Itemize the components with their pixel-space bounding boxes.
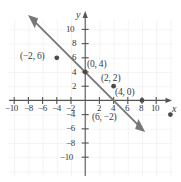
graph-canvas	[0, 0, 181, 182]
x-tick-label-neg6: −6	[38, 104, 47, 113]
y-tick-label-neg4: −4	[66, 110, 75, 119]
y-tick-label-pos10: 10	[66, 25, 74, 34]
y-tick-label-neg6: −6	[66, 124, 75, 133]
x-tick-label-pos10: 10	[151, 104, 159, 113]
y-axis-label: y	[76, 10, 80, 20]
x-tick-label-pos8: 8	[139, 104, 143, 113]
data-point-marker	[54, 55, 59, 60]
point-label-2-2: (2, 2)	[101, 74, 120, 84]
x-tick-label-neg8: −8	[24, 104, 33, 113]
y-tick-label-pos8: 8	[72, 39, 76, 48]
x-tick-label-neg4: −4	[52, 104, 61, 113]
y-tick-label-neg10: −10	[60, 153, 73, 162]
point-label-6-neg2: (6, −2)	[92, 113, 117, 123]
grid-lines	[9, 20, 172, 176]
point-label-neg2-6: (−2, 6)	[20, 52, 45, 62]
point-label-4-0: (4, 0)	[115, 88, 134, 98]
x-axis-label: x	[172, 104, 176, 114]
coordinate-plane-figure: −10 −8 −6 −4 −2 2 4 6 8 10 10 8 6 4 2 −4…	[0, 0, 181, 182]
y-tick-label-neg8: −8	[66, 139, 75, 148]
data-point-marker	[83, 70, 88, 75]
x-tick-label-neg10: −10	[5, 104, 18, 113]
y-tick-label-pos4: 4	[72, 68, 76, 77]
x-tick-label-pos6: 6	[125, 104, 129, 113]
y-tick-label-pos2: 2	[72, 82, 76, 91]
y-tick-label-pos6: 6	[72, 53, 76, 62]
point-label-0-4: (0, 4)	[87, 60, 106, 70]
